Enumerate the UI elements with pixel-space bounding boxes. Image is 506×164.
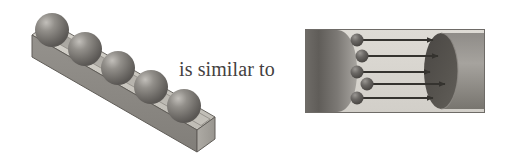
bar-sphere [68, 32, 102, 66]
tube-left-cylinder [306, 30, 357, 112]
tube-sphere [361, 78, 374, 91]
comparison-figure: is similar to [0, 0, 506, 164]
grooved-bar-svg [0, 0, 240, 164]
grooved-bar-diagram [0, 0, 240, 164]
tube-diffusion-svg [305, 29, 485, 113]
bar-sphere [167, 89, 201, 123]
bar-sphere [134, 70, 168, 104]
is-similar-to-label: is similar to [179, 57, 299, 81]
bar-sphere [35, 13, 69, 47]
tube-sphere [356, 50, 369, 63]
tube-sphere [351, 34, 364, 47]
bar-sphere [101, 51, 135, 85]
tube-sphere [351, 92, 364, 105]
tube-diffusion-diagram [305, 29, 485, 113]
tube-sphere [351, 66, 364, 79]
